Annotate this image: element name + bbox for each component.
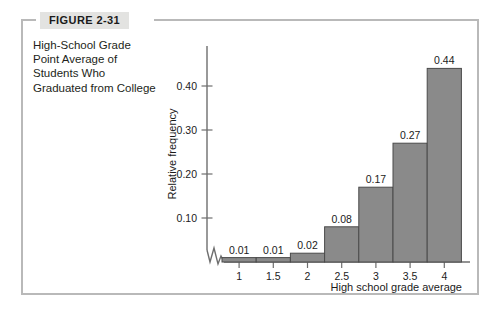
figure-number-label: FIGURE 2-31 <box>40 12 129 29</box>
figure-caption: High-School Grade Point Average of Stude… <box>33 38 158 95</box>
